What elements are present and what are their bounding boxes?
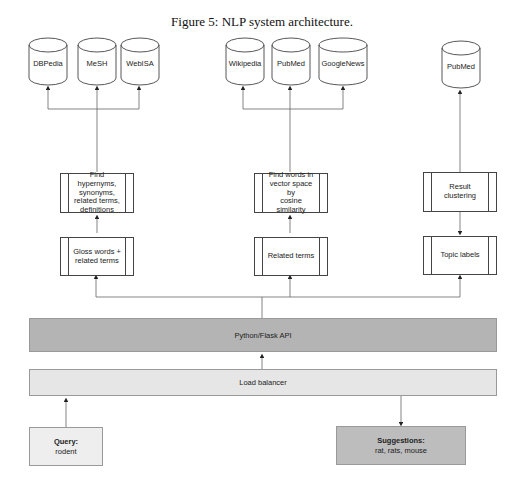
process-gloss-words: Gloss words + related terms	[60, 237, 134, 276]
process-label: Result clustering	[424, 183, 496, 200]
process-vector-space: Find words in vector space by cosine sim…	[254, 173, 328, 213]
query-value: rodent	[55, 447, 76, 456]
database-label: MeSH	[77, 59, 117, 68]
load-balancer-layer: Load balancer	[29, 369, 497, 396]
suggestions-box: Suggestions: rat, rats, mouse	[336, 426, 466, 465]
process-find-hypernyms: Find hypernyms, synonyms, related terms,…	[60, 173, 134, 213]
process-label: Related terms	[258, 252, 325, 261]
process-related-terms: Related terms	[254, 237, 328, 276]
load-balancer-label: Load balancer	[239, 378, 287, 387]
database-label: DBPedia	[28, 59, 68, 68]
database-label: GoogleNews	[318, 59, 368, 68]
database-dbpedia: DBPedia	[28, 37, 68, 85]
database-pubmed: PubMed	[271, 37, 311, 85]
query-box: Query: rodent	[29, 427, 103, 466]
database-googlenews: GoogleNews	[318, 37, 368, 85]
process-topic-labels: Topic labels	[423, 236, 497, 275]
process-label: Gloss words + related terms	[63, 248, 131, 265]
database-pubmed-clustering: PubMed	[441, 40, 481, 88]
process-label: Topic labels	[430, 251, 489, 260]
query-title: Query:	[54, 437, 78, 446]
database-label: PubMed	[441, 62, 481, 71]
process-label: Find hypernyms, synonyms, related terms,…	[61, 171, 133, 214]
api-label: Python/Flask API	[234, 331, 291, 340]
suggestions-value: rat, rats, mouse	[375, 446, 427, 455]
database-label: WebISA	[120, 59, 160, 68]
database-label: Wikipedia	[225, 59, 265, 68]
database-mesh: MeSH	[77, 37, 117, 85]
database-label: PubMed	[271, 59, 311, 68]
process-result-clustering: Result clustering	[423, 172, 497, 212]
process-label: Find words in vector space by cosine sim…	[255, 171, 327, 214]
database-webisa: WebISA	[120, 37, 160, 85]
database-wikipedia: Wikipedia	[225, 37, 265, 85]
python-flask-api-layer: Python/Flask API	[29, 318, 497, 352]
suggestions-title: Suggestions:	[377, 436, 425, 445]
